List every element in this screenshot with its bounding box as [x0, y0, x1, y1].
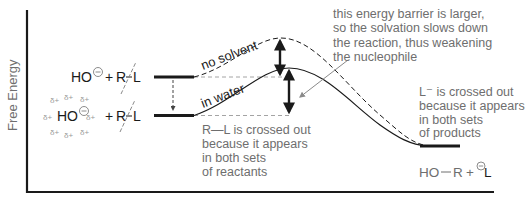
- svg-text:the nucleophile: the nucleophile: [333, 50, 417, 64]
- svg-text:δ+: δ+: [50, 96, 59, 105]
- svg-text:δ+: δ+: [80, 95, 89, 104]
- in-water-label: in water: [199, 80, 247, 111]
- reactants-no-solvent: HO + R L: [71, 62, 141, 94]
- no-solvent-label: no solvent: [199, 37, 260, 72]
- svg-text:of products: of products: [419, 126, 481, 140]
- svg-text:δ+: δ+: [80, 128, 89, 137]
- svg-text:δ+: δ+: [50, 128, 59, 137]
- reactants-in-water: δ+ δ+ δ+ δ+ δ+ δ+ δ+ δ+ HO + R L: [43, 93, 141, 140]
- substrate-r: R: [116, 69, 126, 85]
- svg-text:this energy barrier is larger,: this energy barrier is larger,: [333, 7, 484, 21]
- barrier-annotation: this energy barrier is larger, so the so…: [333, 7, 492, 64]
- svg-text:R: R: [453, 165, 463, 180]
- products-label: HO R + L: [419, 162, 492, 180]
- plus-sign: +: [105, 69, 113, 85]
- l-crossed-annotation: L⁻ is crossed out because it appears in …: [419, 85, 525, 140]
- svg-text:in both sets: in both sets: [202, 151, 266, 165]
- svg-text:+: +: [466, 165, 474, 180]
- plus-sign: +: [105, 108, 113, 124]
- svg-text:the reaction, thus weakening: the reaction, thus weakening: [333, 36, 492, 50]
- svg-text:δ+: δ+: [64, 131, 73, 140]
- rl-crossed-annotation: R—L is crossed out because it appears in…: [202, 123, 311, 179]
- substrate-l: L: [133, 69, 141, 85]
- annotation-pointer-arrow: [300, 60, 348, 97]
- substrate-r: R: [116, 108, 126, 124]
- svg-text:L: L: [484, 165, 492, 180]
- svg-text:δ+: δ+: [43, 113, 52, 122]
- svg-text:because it appears: because it appears: [419, 99, 525, 113]
- nucleophile-label: HO: [57, 108, 78, 124]
- y-axis-label: Free Energy: [5, 59, 20, 131]
- svg-text:so the solvation slows down: so the solvation slows down: [333, 21, 488, 35]
- svg-text:because it appears: because it appears: [202, 137, 308, 151]
- svg-text:in both sets: in both sets: [419, 113, 483, 127]
- svg-text:of reactants: of reactants: [202, 165, 267, 179]
- substrate-l: L: [133, 108, 141, 124]
- svg-text:R—L is crossed out: R—L is crossed out: [202, 123, 311, 137]
- svg-text:HO: HO: [419, 165, 439, 180]
- nucleophile-label: HO: [71, 69, 92, 85]
- energy-diagram: Free Energy HO + R L δ+ δ+ δ+ δ+ δ+ δ+ δ…: [0, 0, 529, 198]
- svg-text:δ+: δ+: [64, 93, 73, 102]
- svg-text:L⁻ is crossed out: L⁻ is crossed out: [419, 85, 514, 99]
